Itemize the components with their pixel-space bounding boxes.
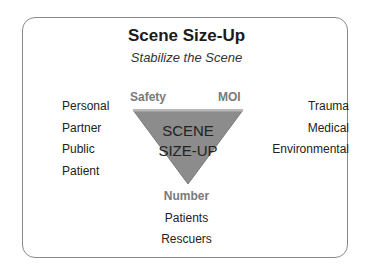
list-item: Patients — [0, 208, 373, 230]
triangle-label-line2: SIZE-UP — [133, 141, 243, 161]
list-item: Environmental — [272, 139, 349, 161]
triangle-label: SCENE SIZE-UP — [133, 121, 243, 161]
corner-label-safety: Safety — [130, 90, 166, 104]
list-item: Medical — [272, 118, 349, 140]
list-item: Rescuers — [0, 229, 373, 251]
triangle-label-line1: SCENE — [133, 121, 243, 141]
safety-list: Personal Partner Public Patient — [62, 96, 109, 182]
number-list: Number Patients Rescuers — [0, 186, 373, 251]
list-item: Partner — [62, 118, 109, 140]
list-item: Public — [62, 139, 109, 161]
list-item: Trauma — [272, 96, 349, 118]
moi-list: Trauma Medical Environmental — [272, 96, 349, 161]
list-item: Patient — [62, 161, 109, 183]
corner-label-number: Number — [0, 186, 373, 208]
corner-label-moi: MOI — [218, 90, 241, 104]
list-item: Personal — [62, 96, 109, 118]
